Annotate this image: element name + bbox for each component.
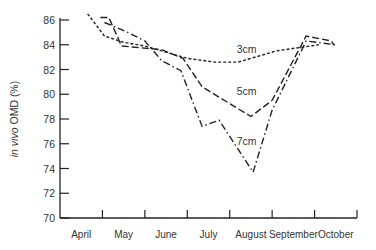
y-axis-label: in vivo OMD (%) bbox=[8, 81, 20, 157]
y-tick-label: 86 bbox=[43, 14, 55, 26]
y-tick-label: 74 bbox=[43, 163, 55, 175]
x-tick-label: October bbox=[318, 229, 354, 240]
series-label: 7cm bbox=[237, 135, 257, 147]
axes bbox=[60, 18, 357, 218]
x-tick-label: July bbox=[200, 229, 218, 240]
series-line-5cm bbox=[100, 18, 333, 117]
x-axis-ticks: AprilMayJuneJulyAugustSeptemberOctober bbox=[71, 210, 357, 240]
x-tick-label: April bbox=[71, 229, 91, 240]
series-label: 5cm bbox=[237, 85, 257, 97]
y-axis-ticks: 707274767880828486 bbox=[43, 14, 69, 224]
data-series bbox=[88, 14, 336, 172]
line-chart: 707274767880828486 AprilMayJuneJulyAugus… bbox=[0, 0, 376, 250]
x-tick-label: May bbox=[114, 229, 133, 240]
series-label: 3cm bbox=[237, 43, 257, 55]
x-tick-label: September bbox=[269, 229, 319, 240]
y-tick-label: 76 bbox=[43, 138, 55, 150]
y-tick-label: 78 bbox=[43, 113, 55, 125]
series-line-3cm bbox=[88, 14, 319, 62]
series-labels: 3cm5cm7cm bbox=[237, 43, 257, 147]
y-tick-label: 82 bbox=[43, 64, 55, 76]
x-tick-label: August bbox=[235, 229, 266, 240]
y-tick-label: 84 bbox=[43, 39, 55, 51]
y-tick-label: 72 bbox=[43, 187, 55, 199]
y-tick-label: 70 bbox=[43, 212, 55, 224]
x-tick-label: June bbox=[155, 229, 177, 240]
y-tick-label: 80 bbox=[43, 88, 55, 100]
